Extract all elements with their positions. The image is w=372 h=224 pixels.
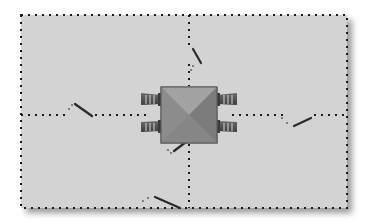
diagram-canvas [0, 0, 372, 224]
connector-right-upper [217, 93, 237, 106]
connector-left-upper [141, 93, 161, 106]
central-component-pyramid [161, 87, 217, 143]
connector-left-lower [141, 120, 161, 133]
connector-right-lower [217, 120, 237, 133]
wiring-diagram [0, 0, 372, 224]
